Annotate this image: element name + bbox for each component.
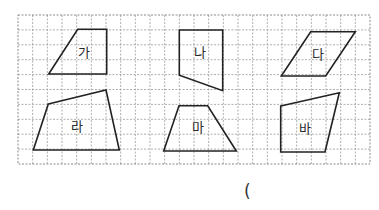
quadrilaterals: 가나다라마바 [33, 29, 355, 152]
shape-5: 마 [164, 106, 237, 151]
shape-3: 다 [281, 32, 355, 76]
shape-label: 가 [78, 45, 90, 60]
shape-label: 바 [299, 121, 311, 136]
shape-label: 마 [192, 120, 204, 135]
shape-label: 다 [312, 47, 324, 62]
shape-2: 나 [179, 30, 222, 91]
quadrilateral-outline [179, 30, 222, 91]
shape-6: 바 [281, 93, 340, 152]
worksheet-figure: 가나다라마바 ( [0, 0, 379, 210]
square-grid [18, 15, 370, 164]
shape-label: 라 [71, 119, 83, 134]
grid-figure: 가나다라마바 [0, 0, 379, 210]
answer-blank-open-paren: ( [244, 183, 251, 200]
shape-1: 가 [49, 29, 107, 74]
shape-label: 나 [194, 45, 206, 60]
